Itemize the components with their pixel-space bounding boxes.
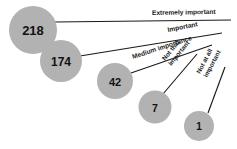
- bubble-chart: 2181744271 Extremely importantImportantM…: [0, 0, 237, 149]
- bubble[interactable]: 42: [97, 63, 133, 99]
- bubble[interactable]: 174: [40, 40, 82, 82]
- bubble[interactable]: 7: [139, 91, 172, 124]
- bubble-value-label: 174: [51, 55, 71, 69]
- leader-line: [208, 67, 225, 113]
- bubble-value-label: 42: [109, 76, 121, 88]
- bubble-value-label: 218: [22, 23, 44, 38]
- bubble-value-label: 1: [196, 121, 202, 132]
- category-label: Extremely important: [152, 8, 217, 17]
- category-label-line: Important: [167, 20, 199, 34]
- bubble[interactable]: 1: [184, 111, 214, 141]
- bubble-value-label: 7: [152, 102, 158, 114]
- category-label-line: Extremely important: [152, 8, 217, 17]
- chart-canvas: 2181744271 Extremely importantImportantM…: [0, 0, 237, 149]
- category-label: Important: [167, 20, 199, 34]
- leader-line: [55, 20, 231, 22]
